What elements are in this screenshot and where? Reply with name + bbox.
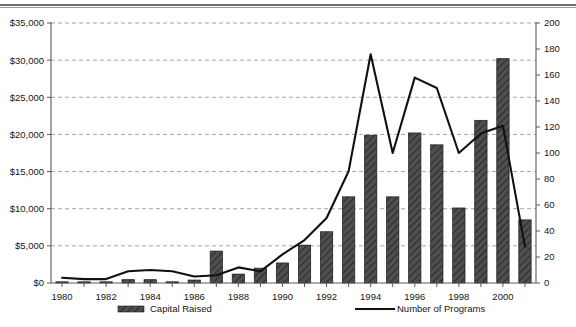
bar — [364, 135, 376, 283]
x-axis-tick-label: 1994 — [360, 291, 381, 302]
left-axis-tick-label: $15,000 — [10, 166, 44, 177]
right-axis-tick-labels: 020406080100120140160180200 — [544, 17, 560, 288]
x-axis-tick-label: 1986 — [184, 291, 205, 302]
bar — [453, 208, 465, 283]
right-axis-tick-label: 60 — [544, 199, 555, 210]
bar — [497, 59, 509, 283]
bar — [475, 120, 487, 283]
left-axis-tick-label: $30,000 — [10, 55, 44, 66]
bar — [519, 220, 531, 283]
x-axis-tick-label: 1998 — [448, 291, 469, 302]
right-axis-tick-label: 0 — [544, 277, 549, 288]
legend-label-capital-raised: Capital Raised — [150, 303, 212, 314]
x-axis-tick-labels: 1980198219841986198819901992199419961998… — [51, 291, 513, 302]
right-axis-tick-label: 140 — [544, 95, 560, 106]
header-rule — [0, 4, 576, 6]
legend-swatch-capital-raised — [118, 306, 144, 312]
right-axis-tick-label: 40 — [544, 225, 555, 236]
bar — [320, 232, 332, 283]
left-axis-tick-label: $25,000 — [10, 92, 44, 103]
bar — [298, 245, 310, 283]
right-axis-tick-label: 80 — [544, 173, 555, 184]
right-axis-tick-label: 160 — [544, 69, 560, 80]
x-axis-tick-label: 1990 — [272, 291, 293, 302]
legend-label-number-of-programs: Number of Programs — [397, 303, 485, 314]
chart-container: $0$5,000$10,000$15,000$20,000$25,000$30,… — [0, 0, 576, 327]
bar — [387, 197, 399, 283]
left-axis-tick-label: $5,000 — [15, 240, 44, 251]
right-axis-tick-label: 100 — [544, 147, 560, 158]
left-axis-tick-label: $35,000 — [10, 17, 44, 28]
x-axis-tick-label: 1984 — [140, 291, 161, 302]
chart-legend: Capital RaisedNumber of Programs — [118, 303, 485, 314]
header-rule-thin — [0, 7, 576, 8]
bar — [232, 274, 244, 283]
x-axis-tick-label: 1996 — [404, 291, 425, 302]
left-axis-tick-label: $20,000 — [10, 129, 44, 140]
x-axis-tick-label: 1992 — [316, 291, 337, 302]
bar — [210, 251, 222, 283]
x-axis-tick-label: 1980 — [51, 291, 72, 302]
bar — [431, 145, 443, 283]
left-axis-tick-labels: $0$5,000$10,000$15,000$20,000$25,000$30,… — [10, 17, 44, 288]
bar-series-capital-raised — [56, 59, 531, 283]
dual-axis-bar-line-chart: $0$5,000$10,000$15,000$20,000$25,000$30,… — [0, 0, 576, 327]
bar — [276, 263, 288, 283]
x-axis-tick-label: 1988 — [228, 291, 249, 302]
right-axis-tick-label: 200 — [544, 17, 560, 28]
left-axis-tick-label: $0 — [33, 277, 44, 288]
x-axis-tick-label: 2000 — [492, 291, 513, 302]
bar — [342, 197, 354, 283]
right-axis-tick-label: 120 — [544, 121, 560, 132]
right-axis-tick-label: 180 — [544, 43, 560, 54]
right-axis-tick-label: 20 — [544, 251, 555, 262]
bar — [409, 133, 421, 283]
x-axis-tick-label: 1982 — [96, 291, 117, 302]
left-axis-tick-label: $10,000 — [10, 203, 44, 214]
